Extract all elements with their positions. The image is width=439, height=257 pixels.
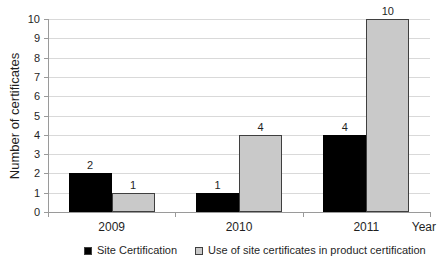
y-axis-line xyxy=(48,19,49,216)
x-category-label: 2010 xyxy=(204,220,274,234)
bar-2009-series-0 xyxy=(69,173,112,212)
x-category-label: 2011 xyxy=(331,220,401,234)
x-axis-title: Year xyxy=(412,220,436,234)
legend-label: Use of site certificates in product cert… xyxy=(208,244,426,257)
y-axis-tick xyxy=(44,135,48,136)
bar-2009-series-1 xyxy=(112,193,155,212)
legend-swatch-icon xyxy=(84,247,92,255)
legend-label: Site Certification xyxy=(97,244,177,257)
y-tick-label: 0 xyxy=(0,206,40,219)
bar-2011-series-0 xyxy=(323,135,366,212)
y-tick-label: 4 xyxy=(0,129,40,142)
y-tick-label: 8 xyxy=(0,52,40,65)
x-category-label: 2009 xyxy=(77,220,147,234)
y-axis-tick xyxy=(44,173,48,174)
x-axis-tick xyxy=(430,213,431,217)
bar-value-label: 1 xyxy=(196,179,239,192)
bar-value-label: 10 xyxy=(366,5,409,18)
y-tick-label: 6 xyxy=(0,90,40,103)
x-axis-tick xyxy=(48,213,49,217)
y-axis-tick xyxy=(44,154,48,155)
bar-2011-series-1 xyxy=(366,19,409,212)
y-tick-label: 10 xyxy=(0,13,40,26)
y-tick-label: 2 xyxy=(0,167,40,180)
y-axis-tick xyxy=(44,116,48,117)
legend: Site CertificationUse of site certificat… xyxy=(84,244,426,257)
y-tick-label: 5 xyxy=(0,110,40,123)
y-tick-label: 7 xyxy=(0,71,40,84)
y-axis-tick xyxy=(44,193,48,194)
legend-item: Use of site certificates in product cert… xyxy=(195,244,426,257)
bar-value-label: 1 xyxy=(112,179,155,192)
bar-value-label: 4 xyxy=(239,121,282,134)
legend-item: Site Certification xyxy=(84,244,177,257)
y-tick-label: 1 xyxy=(0,187,40,200)
legend-swatch-icon xyxy=(195,247,203,255)
y-tick-label: 3 xyxy=(0,148,40,161)
y-axis-tick xyxy=(44,77,48,78)
bar-2010-series-1 xyxy=(239,135,282,212)
y-tick-label: 9 xyxy=(0,32,40,45)
x-axis-tick xyxy=(303,213,304,217)
y-axis-tick xyxy=(44,38,48,39)
y-axis-tick xyxy=(44,96,48,97)
bar-2010-series-0 xyxy=(196,193,239,212)
bar-value-label: 2 xyxy=(69,159,112,172)
bar-value-label: 4 xyxy=(323,121,366,134)
x-axis-tick xyxy=(175,213,176,217)
y-axis-tick xyxy=(44,19,48,20)
y-axis-tick xyxy=(44,58,48,59)
x-axis-line xyxy=(48,212,431,213)
